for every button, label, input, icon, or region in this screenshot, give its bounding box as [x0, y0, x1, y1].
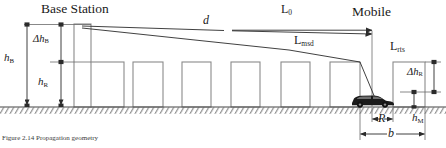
hR-label: hR: [38, 76, 48, 88]
hB-label: hB: [4, 52, 14, 64]
building: [90, 62, 124, 107]
Lmsd-label: Lmsd: [294, 34, 314, 47]
hM-label: hM: [412, 112, 424, 124]
Lrts-label: Lrts: [390, 40, 405, 53]
distance-d-label: d: [203, 14, 209, 26]
base-station-label: Base Station: [41, 2, 109, 16]
L0-label: L0: [281, 3, 292, 16]
diagram-canvas: [0, 0, 446, 148]
mobile-label: Mobile: [352, 5, 391, 19]
delta-hB-label: ΔhB: [33, 34, 49, 45]
mobile-vehicle: [352, 96, 394, 108]
building: [231, 62, 260, 107]
building: [133, 62, 163, 107]
delta-hR-label: ΔhR: [407, 67, 423, 78]
base-station-mast: [74, 24, 91, 107]
b-label: b: [388, 127, 394, 139]
building: [281, 62, 310, 107]
propagation-geometry-figure: Base Station Mobile d L0 Lmsd Lrts hB Δh…: [0, 0, 446, 148]
figure-caption: Figure 2.14 Propagation geometry: [2, 134, 98, 142]
R-label: R: [378, 112, 385, 124]
building: [182, 62, 211, 107]
